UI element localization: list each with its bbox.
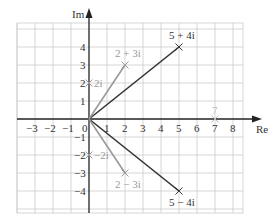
argand-diagram: Re Im −3−2−10123456781234−1−2−3−4 5 + 4i… [0, 0, 277, 221]
imaginary-axis-arrow-icon [86, 8, 93, 18]
x-tick-label: 8 [230, 122, 236, 134]
point-label: 2 − 3i [115, 178, 141, 190]
x-tick-label: 4 [158, 122, 164, 134]
x-tick-label: −3 [26, 122, 38, 134]
imaginary-axis-label: Im [72, 8, 85, 20]
y-tick-label: −1 [74, 131, 86, 143]
point-label: 2 + 3i [115, 47, 141, 59]
y-tick-label: 3 [80, 59, 86, 71]
y-tick-label: −3 [74, 167, 86, 179]
real-axis-label: Re [256, 123, 268, 135]
y-tick-label: 4 [80, 41, 86, 53]
x-tick-label: 5 [176, 122, 182, 134]
real-axis-arrow-icon [252, 116, 262, 123]
y-tick-label: −4 [74, 185, 86, 197]
y-tick-label: 1 [80, 95, 86, 107]
x-tick-label: −2 [44, 122, 56, 134]
x-tick-label: −1 [62, 122, 74, 134]
point-label: 5 − 4i [169, 196, 195, 208]
y-tick-label: 2 [80, 77, 86, 89]
point-label: 2i [94, 77, 103, 89]
point-label: −2i [94, 149, 109, 161]
x-tick-label: 2 [122, 122, 128, 134]
x-tick-label: 7 [212, 122, 218, 134]
point-label: 5 + 4i [169, 29, 195, 41]
y-tick-label: −2 [74, 149, 86, 161]
x-tick-label: 6 [194, 122, 200, 134]
point-label: 7 [212, 104, 218, 116]
x-tick-label: 3 [140, 122, 146, 134]
